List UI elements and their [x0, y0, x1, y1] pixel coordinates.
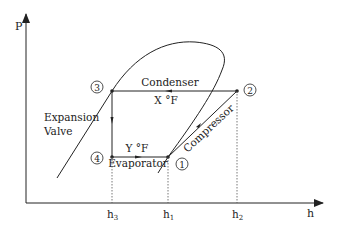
svg-text:3: 3 — [94, 83, 100, 93]
svg-text:1: 1 — [179, 160, 185, 170]
state-label-4: 4 — [91, 152, 103, 164]
condenser-temp: X °F — [154, 94, 177, 106]
condenser-arrow-icon — [165, 90, 172, 93]
tick-h3: h3 — [107, 208, 118, 222]
tick-h2: h2 — [232, 208, 243, 222]
tick-h1: h1 — [163, 208, 174, 222]
condenser-label: Condenser — [141, 76, 199, 88]
ph-diagram: P h 3 2 4 1 — [0, 0, 344, 228]
state-point-3 — [110, 89, 114, 93]
expansion-label-line2: Valve — [43, 125, 72, 137]
svg-text:4: 4 — [94, 154, 100, 164]
x-axis-label: h — [307, 207, 314, 220]
expansion-label-line1: Expansion — [44, 111, 99, 123]
evaporator-temp: Y °F — [125, 142, 149, 154]
state-label-1: 1 — [176, 158, 188, 170]
evaporator-label: Evaporator — [108, 157, 169, 169]
state-label-3: 3 — [91, 81, 103, 93]
svg-text:2: 2 — [247, 86, 253, 96]
state-label-2: 2 — [244, 84, 256, 96]
y-axis-label: P — [15, 20, 23, 33]
expansion-arrow-icon — [111, 117, 114, 124]
